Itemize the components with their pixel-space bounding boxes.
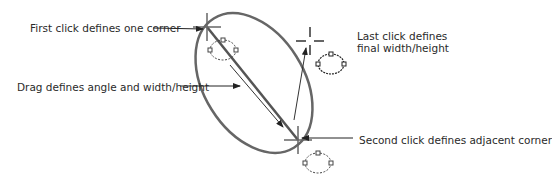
ellipse-cursor-icon-2 [316,52,346,74]
drag-label: Drag defines angle and width/height [17,81,209,93]
drag-arrow [230,65,283,127]
last-click-label-line1: Last click defines [357,30,449,42]
last-click-label: Last click defines final width/height [357,30,449,54]
ellipse-cursor-icon-1 [208,38,238,60]
crosshair-last-click-icon [296,27,324,55]
last-click-arrow [294,48,306,120]
last-click-label-line2: final width/height [357,42,449,54]
ellipse-cursor-icon-3 [303,151,333,173]
first-click-label: First click defines one corner [30,22,181,34]
second-click-label: Second click defines adjacent corner [359,134,552,146]
